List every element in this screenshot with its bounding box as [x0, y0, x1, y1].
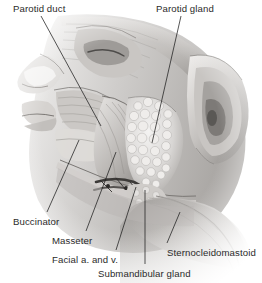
- anatomical-figure: Parotid duct Parotid gland Buccinator Ma…: [0, 0, 262, 283]
- label-buccinator: Buccinator: [13, 216, 59, 227]
- label-parotid-gland: Parotid gland: [156, 3, 214, 14]
- label-submandibular-gland: Submandibular gland: [98, 268, 191, 279]
- label-sternocleidomastoid: Sternocleidomastoid: [167, 247, 256, 258]
- label-masseter: Masseter: [52, 235, 92, 246]
- label-parotid-duct: Parotid duct: [13, 3, 65, 14]
- illustration-canvas: [0, 0, 262, 283]
- label-facial-vessels: Facial a. and v.: [52, 254, 118, 265]
